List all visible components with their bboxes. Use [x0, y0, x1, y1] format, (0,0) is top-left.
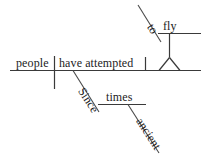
word-object-times: times — [106, 91, 133, 103]
pedestal-right-leg — [170, 58, 181, 71]
sentence-diagram: people have attempted to fly Since times… — [0, 0, 203, 158]
word-predicate-have-attempted: have attempted — [59, 57, 133, 69]
word-subject-people: people — [16, 57, 49, 69]
word-infinitive-fly: fly — [163, 20, 177, 32]
pedestal-left-leg — [159, 58, 170, 71]
